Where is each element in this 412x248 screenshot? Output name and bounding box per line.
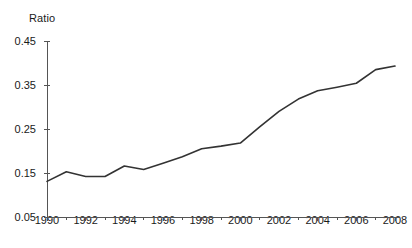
data-series	[47, 66, 395, 181]
plot-area	[0, 0, 412, 248]
series-line-ratio	[47, 66, 395, 181]
ratio-line-chart: Ratio 0.450.350.250.150.05 1990199219941…	[0, 0, 412, 248]
axes	[44, 41, 400, 221]
